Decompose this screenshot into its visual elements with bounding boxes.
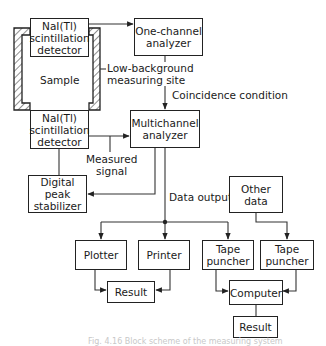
sample-label: Sample [40,74,79,86]
detector-top-box: NaI(Tl) scintillation detector [30,18,89,57]
other-data-box: Other data [229,176,283,213]
tape-puncher-1-box: Tape puncher [202,240,254,270]
data-output-label: Data output [169,191,232,203]
plotter-box: Plotter [75,240,127,270]
digital-peak-stabilizer-box: Digital peak stabilizer [28,175,87,213]
multichannel-analyzer-box: Multichannel analyzer [130,110,200,148]
coincidence-condition-label: Coincidence condition [172,89,288,101]
printer-box: Printer [138,240,190,270]
figure-caption: Fig. 4.16 Block scheme of the measuring … [88,337,283,346]
low-background-site-label: Low-background measuring site [107,62,194,86]
result-2-box: Result [233,316,278,338]
computer-box: Computer [229,280,283,305]
result-1-box: Result [107,281,155,303]
measured-signal-label: Measured signal [86,153,137,177]
detector-bottom-box: NaI(Tl) scintillation detector [30,110,89,149]
tape-puncher-2-box: Tape puncher [260,240,314,270]
one-channel-analyzer-box: One-channel analyzer [134,18,203,56]
junction-dot [163,220,167,224]
